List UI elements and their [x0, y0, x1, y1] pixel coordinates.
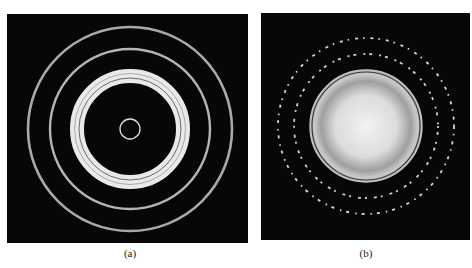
diffraction-panel-b: [261, 13, 470, 240]
caption-a: (a): [110, 247, 150, 259]
ring-pattern-a: [7, 14, 248, 243]
diffraction-panel-a: [7, 14, 248, 243]
ring-pattern-b: [261, 13, 470, 240]
caption-b: (b): [346, 247, 386, 259]
